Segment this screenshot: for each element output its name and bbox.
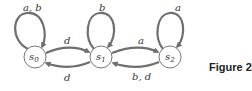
edge-s0-s1 [46,48,89,53]
edge-s2-s1 [113,62,159,67]
state-diagram: s0 s1 s2 a, b d d b a b, d a [0,0,252,91]
edge-s0-s0 [15,13,45,49]
edge-s2-s2 [158,13,184,49]
label-s1-loop: b [99,2,105,13]
label-s1-s2: a [138,35,144,46]
label-s2-loop: a [175,2,181,13]
edge-s1-s1 [88,13,114,49]
label-s1-s0: d [64,72,70,83]
edge-s1-s0 [46,62,90,67]
figure-caption: Figure 2 [209,61,252,73]
edge-s1-s2 [112,48,158,53]
label-s0-loop: a, b [23,2,42,13]
label-s0-s1: d [64,35,70,46]
label-s2-s1: b, d [132,71,151,82]
